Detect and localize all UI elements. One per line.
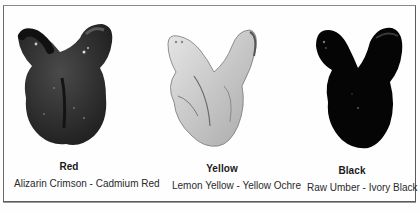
yellow-mix-caption: Lemon Yellow - Yellow Ochre bbox=[172, 180, 272, 191]
red-title: Red bbox=[44, 161, 94, 172]
black-title: Black bbox=[327, 165, 377, 176]
red-paint-swatch-image bbox=[14, 18, 124, 150]
black-paint-swatch-image bbox=[312, 24, 416, 152]
yellow-title: Yellow bbox=[197, 163, 247, 174]
red-mix-caption: Alizarin Crimson - Cadmium Red bbox=[14, 178, 124, 189]
black-mix-caption: Raw Umber - Ivory Black bbox=[307, 182, 399, 193]
yellow-paint-swatch-image bbox=[164, 26, 274, 150]
